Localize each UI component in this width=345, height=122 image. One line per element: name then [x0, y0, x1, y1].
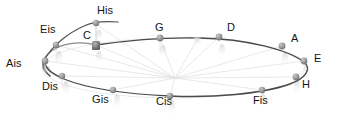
note-label-g: G [155, 22, 164, 33]
note-label-ais: Ais [6, 58, 22, 69]
node-marker-ais[interactable] [42, 58, 49, 65]
node-shadow [96, 51, 102, 65]
ghost-node [193, 36, 202, 45]
note-label-dis: Dis [42, 81, 58, 92]
node-marker-d[interactable] [216, 34, 223, 41]
note-label-d: D [227, 22, 235, 33]
note-label-his: His [97, 5, 113, 16]
note-label-h: H [302, 79, 310, 90]
node-shadow [282, 52, 288, 66]
note-label-eis: Eis [40, 24, 56, 35]
node-group [42, 20, 308, 99]
spoke-to-gis [113, 78, 175, 90]
node-marker-fis[interactable] [259, 87, 265, 93]
note-label-a: A [291, 33, 298, 44]
node-marker-h[interactable] [293, 74, 300, 81]
node-marker-gis[interactable] [110, 87, 116, 93]
ring-front-arc [45, 38, 308, 97]
note-label-c: C [83, 30, 91, 41]
spoke-to-fis [175, 78, 262, 90]
node-marker-e[interactable] [301, 58, 308, 65]
spoke-to-h [175, 77, 296, 78]
node-marker-dis[interactable] [59, 73, 65, 79]
node-marker-eis[interactable] [53, 42, 59, 48]
node-shadow [56, 51, 62, 65]
note-label-cis: Cis [156, 96, 172, 107]
node-marker-g[interactable] [157, 35, 164, 42]
node-shadow [160, 45, 166, 59]
note-label-gis: Gis [92, 94, 109, 105]
node-shadow [114, 94, 120, 110]
node-marker-c[interactable] [92, 41, 100, 50]
node-shadow [219, 44, 225, 58]
node-marker-his[interactable] [93, 20, 99, 26]
diagram-canvas: C G D A E H Fis Cis Gis Dis Ais Eis His [0, 0, 345, 122]
node-shadow [63, 81, 69, 97]
spoke-to-dis [62, 76, 175, 78]
node-marker-a[interactable] [279, 43, 286, 50]
note-label-fis: Fis [253, 95, 268, 106]
spoke-to-eis [56, 45, 175, 78]
note-circle-svg [0, 0, 345, 122]
note-label-e: E [314, 53, 321, 64]
node-shadow [96, 30, 102, 42]
